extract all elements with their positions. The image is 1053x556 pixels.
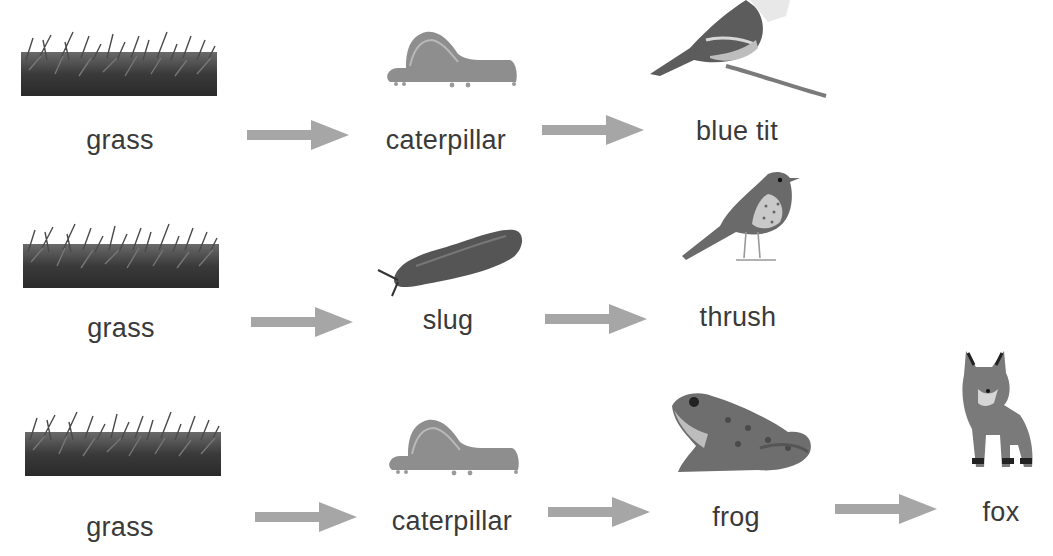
organism-label: caterpillar bbox=[392, 506, 512, 537]
grass-image bbox=[21, 30, 221, 110]
arrow-icon bbox=[255, 502, 359, 534]
grass-image bbox=[25, 410, 225, 490]
organism-label: grass bbox=[86, 512, 154, 543]
organism-label: fox bbox=[983, 497, 1020, 528]
grass-image bbox=[23, 222, 223, 302]
arrow-icon bbox=[545, 304, 649, 336]
organism-label: caterpillar bbox=[386, 125, 506, 156]
arrow-icon bbox=[247, 120, 351, 152]
organism-label: grass bbox=[87, 313, 155, 344]
slug-image bbox=[376, 220, 526, 300]
organism-label: frog bbox=[712, 502, 760, 533]
organism-label: slug bbox=[423, 305, 474, 336]
arrow-icon bbox=[542, 115, 646, 147]
arrow-icon bbox=[548, 497, 652, 529]
caterpillar-image bbox=[370, 20, 530, 92]
frog-image bbox=[668, 388, 818, 478]
fox-image bbox=[958, 349, 1038, 473]
blue-tit-image bbox=[650, 0, 830, 100]
arrow-icon bbox=[835, 494, 939, 526]
organism-label: grass bbox=[86, 125, 154, 156]
arrow-icon bbox=[251, 307, 355, 339]
thrush-image bbox=[680, 166, 804, 266]
organism-label: thrush bbox=[700, 302, 777, 333]
organism-label: blue tit bbox=[696, 116, 778, 147]
caterpillar-image bbox=[372, 408, 532, 480]
